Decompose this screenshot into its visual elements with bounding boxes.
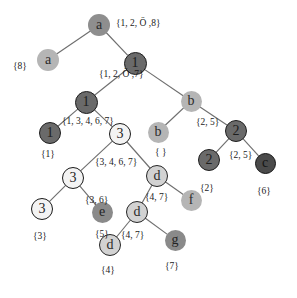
tree-edge — [49, 185, 66, 202]
tree-node-c[interactable]: c — [255, 153, 276, 174]
tree-node-f[interactable]: f — [181, 190, 202, 211]
set-label: {8} — [13, 62, 27, 72]
tree-edge — [144, 69, 183, 96]
set-label: { } — [155, 148, 167, 158]
tree-node-1[interactable]: 1 — [39, 122, 61, 144]
tree-node-3[interactable]: 3 — [62, 167, 84, 189]
set-label: {1, 2, Ö ,7} — [99, 70, 143, 80]
tree-diagram: aa11b13b23d2c3edfdg {1, 2, Ö ,8}{8}{1, 2… — [0, 0, 297, 298]
set-label: {4, 7} — [121, 231, 144, 241]
tree-edge — [56, 31, 91, 55]
set-label: {6} — [257, 187, 271, 197]
tree-node-2[interactable]: 2 — [225, 120, 247, 142]
set-label: {3, 6} — [85, 196, 108, 206]
tree-edge — [106, 32, 128, 55]
set-label: {4} — [101, 266, 115, 276]
tree-node-a[interactable]: a — [37, 49, 59, 71]
set-label: {2} — [200, 184, 214, 194]
tree-node-1[interactable]: 1 — [75, 91, 98, 114]
set-label: {2, 5} — [229, 151, 252, 161]
set-label: {4, 7} — [145, 193, 168, 203]
set-label: {1, 2, Ö ,8} — [116, 19, 160, 29]
tree-node-d[interactable]: d — [146, 165, 168, 187]
tree-node-d[interactable]: d — [126, 201, 148, 223]
tree-node-2[interactable]: 2 — [198, 149, 220, 171]
tree-node-a[interactable]: a — [88, 14, 110, 36]
set-label: {3} — [33, 232, 47, 242]
tree-node-b[interactable]: b — [181, 91, 202, 112]
set-label: {3, 4, 6, 7} — [95, 158, 137, 168]
set-label: {1} — [41, 150, 55, 160]
tree-node-g[interactable]: g — [165, 230, 186, 251]
tree-node-b[interactable]: b — [148, 122, 169, 143]
set-label: {7} — [165, 262, 179, 272]
set-label: {1, 3, 4, 6, 7} — [62, 117, 114, 127]
set-label: {5} — [95, 230, 109, 240]
tree-edge — [165, 108, 184, 126]
tree-edge — [145, 218, 167, 234]
set-label: {2, 5} — [196, 118, 219, 128]
tree-edge — [216, 138, 229, 152]
tree-node-3[interactable]: 3 — [31, 198, 53, 220]
